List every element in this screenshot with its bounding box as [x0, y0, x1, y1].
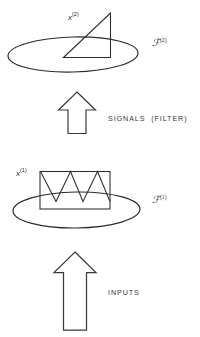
lower-signal-label-superscript: (1) — [20, 167, 27, 173]
lower-signal-label: x(1) — [16, 167, 27, 178]
lower-set-label: ℱ(1) — [152, 194, 167, 205]
inputs-caption: INPUTS — [108, 288, 140, 297]
lower-arrow-group — [54, 252, 96, 330]
lower-set-label-base: ℱ — [152, 194, 160, 205]
upper-set-ellipse — [8, 35, 139, 73]
upper-signal-label: x(2) — [68, 11, 79, 22]
lower-arrow-up-icon — [54, 252, 96, 330]
upper-set-label-base: ℱ — [152, 37, 160, 48]
upper-arrow-group — [59, 92, 96, 134]
diagram-canvas: x(2) ℱ(2) SIGNALS (FILTER) x(1) ℱ(1) INP… — [0, 0, 200, 337]
lower-signal-sawtooth — [41, 172, 111, 202]
upper-set-group — [8, 13, 139, 74]
lower-set-ellipse — [13, 191, 140, 229]
upper-arrow-up-icon — [59, 92, 96, 134]
upper-set-label: ℱ(2) — [152, 37, 167, 48]
diagram-graphics — [0, 0, 200, 337]
lower-set-group — [13, 172, 140, 229]
upper-set-label-superscript: (2) — [160, 37, 167, 43]
lower-set-label-superscript: (1) — [160, 194, 167, 200]
upper-signal-label-superscript: (2) — [72, 11, 79, 17]
signals-filter-caption: SIGNALS (FILTER) — [108, 114, 187, 123]
